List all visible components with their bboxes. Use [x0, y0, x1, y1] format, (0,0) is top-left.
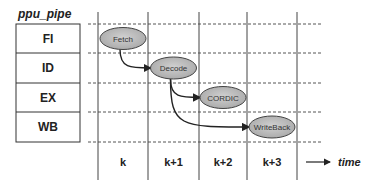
node-cordic: CORDIC: [200, 87, 246, 109]
node-fetch: Fetch: [100, 28, 146, 50]
node-label: WriteBack: [254, 123, 291, 132]
node-label: Fetch: [113, 35, 133, 44]
stage-label-id: ID: [42, 61, 54, 75]
time-tick-label: k: [120, 156, 127, 168]
pipeline-diagram: ppu_pipe FIIDEXWB FetchDecodeCORDICWrite…: [0, 0, 371, 182]
node-decode: Decode: [151, 57, 197, 79]
time-axis: time: [306, 156, 361, 168]
stage-label-fi: FI: [43, 32, 54, 46]
time-label: time: [338, 156, 361, 168]
node-label: CORDIC: [207, 94, 239, 103]
node-writeback: WriteBack: [249, 116, 295, 138]
diagram-title: ppu_pipe: [17, 7, 72, 21]
stage-label-ex: EX: [40, 91, 56, 105]
time-tick-label: k+3: [263, 156, 282, 168]
edge-decode-cordic: [171, 79, 201, 98]
time-tick-label: k+1: [164, 156, 183, 168]
edge-fetch-decode: [120, 50, 151, 69]
stage-label-wb: WB: [38, 120, 58, 134]
node-label: Decode: [160, 64, 188, 73]
time-tick-label: k+2: [214, 156, 233, 168]
